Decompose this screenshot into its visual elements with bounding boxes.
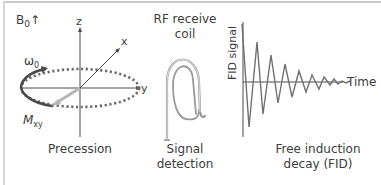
mxy-subscript: xy — [33, 120, 42, 129]
mxy-label: Mxy — [23, 113, 43, 132]
fid-waveform — [242, 24, 350, 127]
magnetization-vector — [56, 88, 80, 103]
precession-caption: Precession — [48, 142, 112, 156]
omega-subscript: 0 — [34, 61, 39, 70]
y-axis-label: y — [141, 82, 148, 96]
rf-coil — [165, 60, 205, 141]
fid-plot — [242, 22, 350, 137]
coil-inner-loop — [173, 66, 199, 119]
mxy-main: M — [23, 113, 33, 127]
fid-caption-line2: decay (FID) — [284, 157, 353, 171]
figure-frame: B0↑ z x y ω0 Mxy Precession RF receive c… — [0, 0, 381, 185]
fid-caption-line1: Free induction — [275, 142, 360, 156]
up-arrow-icon: ↑ — [30, 13, 40, 27]
omega-main: ω — [24, 54, 34, 68]
fid-time-label: Time — [347, 75, 376, 89]
b0-main: B — [16, 13, 24, 27]
detection-caption-line1: Signal — [167, 142, 204, 156]
z-axis-label: z — [76, 15, 82, 29]
x-axis-label: x — [121, 35, 128, 49]
rf-coil-title-line2: coil — [175, 27, 196, 41]
fid-y-axis-label: FID signal — [226, 26, 239, 80]
detection-caption-line2: detection — [157, 157, 214, 171]
omega-label: ω0 — [24, 54, 39, 73]
rf-coil-title-line1: RF receive — [154, 12, 217, 26]
b0-field-label: B0↑ — [16, 13, 40, 31]
